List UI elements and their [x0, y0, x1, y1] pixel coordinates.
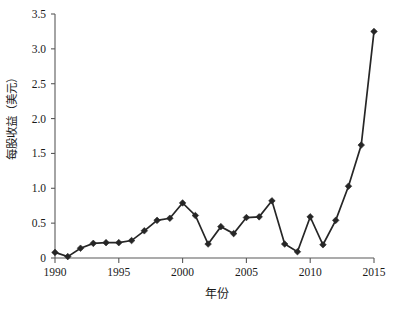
y-axis-tick-marks [51, 14, 55, 258]
x-tick-label: 2005 [235, 266, 258, 278]
x-tick-label: 2000 [171, 266, 194, 278]
y-axis-tick-labels: 00.51.01.52.02.53.03.5 [32, 8, 47, 264]
x-axis-tick-labels: 199019952000200520102015 [44, 266, 386, 278]
x-axis-tick-marks [55, 258, 374, 263]
y-tick-label: 0.5 [32, 217, 47, 229]
data-point-marker [103, 239, 110, 246]
data-point-marker [116, 239, 123, 246]
data-point-marker [90, 240, 97, 247]
data-point-marker [371, 28, 378, 35]
series-markers-eps [52, 28, 378, 260]
x-tick-label: 1995 [107, 266, 130, 278]
series-line-eps [55, 31, 374, 256]
y-tick-label: 0 [40, 252, 46, 264]
x-axis-title: 年份 [40, 284, 393, 302]
chart-figure: 每股收益（美元） 00.51.01.52.02.53.03.5 19901995… [0, 0, 393, 309]
y-tick-label: 1.0 [32, 182, 47, 194]
data-point-marker [332, 217, 339, 224]
data-point-marker [52, 249, 59, 256]
data-point-marker [320, 241, 327, 248]
y-tick-label: 2.5 [32, 78, 47, 90]
x-tick-label: 1990 [44, 266, 67, 278]
x-tick-label: 2010 [299, 266, 322, 278]
y-tick-label: 3.0 [32, 43, 47, 55]
line-chart-plot: 00.51.01.52.02.53.03.5 19901995200020052… [0, 0, 393, 309]
y-tick-label: 3.5 [32, 8, 47, 20]
data-point-marker [307, 214, 314, 221]
y-tick-label: 1.5 [32, 147, 47, 159]
y-tick-label: 2.0 [32, 113, 47, 125]
data-point-marker [345, 183, 352, 190]
x-tick-label: 2015 [363, 266, 386, 278]
data-point-marker [358, 142, 365, 149]
